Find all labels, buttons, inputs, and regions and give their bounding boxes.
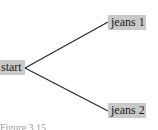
node-start: start [0,60,25,75]
figure-caption: Figure 3.15 [0,123,46,130]
node-jeans-1: jeans 1 [108,15,146,30]
edge-start-to-jeans-2 [25,68,108,111]
node-jeans-2: jeans 2 [108,103,146,118]
edge-start-to-jeans-1 [25,22,108,68]
